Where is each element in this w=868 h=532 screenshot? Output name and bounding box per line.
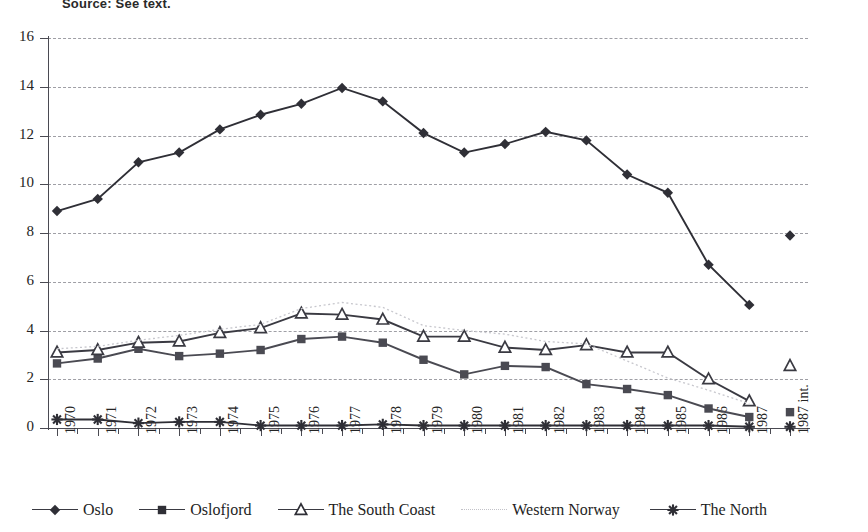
y-axis-tick-label: 0 xyxy=(0,418,34,435)
source-note: Source: See text. xyxy=(62,0,171,8)
triangle-marker xyxy=(295,504,306,515)
x-axis-minor-tick xyxy=(607,428,608,434)
y-axis-tick-label: 10 xyxy=(0,174,34,191)
legend-label: Western Norway xyxy=(512,501,620,519)
y-axis-tick xyxy=(40,282,49,283)
x-axis-tick xyxy=(627,428,628,436)
legend-item-oslofjord[interactable]: Oslofjord xyxy=(139,501,251,519)
y-axis-tick xyxy=(40,184,49,185)
legend-square-icon xyxy=(150,502,174,518)
legend-item-the-north[interactable]: The North xyxy=(650,501,767,519)
gridline xyxy=(48,331,808,332)
y-axis-tick-label: 8 xyxy=(0,223,34,240)
legend-label: Oslofjord xyxy=(190,501,251,519)
gridline xyxy=(48,136,808,137)
chart-figure: Source: See text. 0246810121416 19701971… xyxy=(0,0,868,532)
x-axis-minor-tick xyxy=(281,428,282,434)
x-axis-tick xyxy=(98,428,99,436)
x-axis-minor-tick xyxy=(118,428,119,434)
gridline xyxy=(48,184,808,185)
x-axis-minor-tick xyxy=(403,428,404,434)
x-axis-minor-tick xyxy=(77,428,78,434)
y-axis-tick xyxy=(40,428,49,429)
plot-gridlines xyxy=(48,38,808,428)
x-axis-tick xyxy=(586,428,587,436)
x-axis-tick xyxy=(668,428,669,436)
x-axis-minor-tick xyxy=(647,428,648,434)
square-marker xyxy=(158,506,166,514)
x-axis-minor-tick xyxy=(566,428,567,434)
legend-diamond-icon xyxy=(43,502,67,518)
gridline xyxy=(48,38,808,39)
y-axis-tick-label: 6 xyxy=(0,272,34,289)
y-axis-tick-label: 4 xyxy=(0,321,34,338)
diamond-marker xyxy=(50,505,60,515)
legend-item-the-south-coast[interactable]: The South Coast xyxy=(278,501,436,519)
x-axis-tick xyxy=(383,428,384,436)
y-axis-tick-label: 14 xyxy=(0,77,34,94)
x-axis-tick xyxy=(179,428,180,436)
legend-item-oslo[interactable]: Oslo xyxy=(32,501,113,519)
x-axis-tick xyxy=(261,428,262,436)
gridline xyxy=(48,282,808,283)
y-axis-tick xyxy=(40,379,49,380)
x-axis-tick xyxy=(342,428,343,436)
legend-item-western-norway[interactable]: Western Norway xyxy=(461,501,620,519)
y-axis-tick xyxy=(40,136,49,137)
x-axis-tick xyxy=(546,428,547,436)
y-axis-tick-label: 16 xyxy=(0,28,34,45)
gridline xyxy=(48,379,808,380)
x-axis-tick xyxy=(505,428,506,436)
chart-legend: OsloOslofjordThe South CoastWestern Norw… xyxy=(32,497,852,523)
x-axis-minor-tick xyxy=(322,428,323,434)
y-axis-tick xyxy=(40,233,49,234)
x-axis-tick xyxy=(301,428,302,436)
legend-label: The South Coast xyxy=(329,501,436,519)
y-axis-tick xyxy=(40,38,49,39)
x-axis-tick xyxy=(749,428,750,436)
x-axis-minor-tick xyxy=(485,428,486,434)
gridline xyxy=(48,87,808,88)
asterisk-marker xyxy=(667,504,678,515)
x-axis-minor-tick xyxy=(200,428,201,434)
y-axis-tick xyxy=(40,331,49,332)
x-axis-minor-tick xyxy=(525,428,526,434)
y-axis-tick xyxy=(40,87,49,88)
x-axis-tick xyxy=(220,428,221,436)
x-axis-minor-tick xyxy=(688,428,689,434)
legend-asterisk-icon xyxy=(661,502,685,518)
gridline xyxy=(48,233,808,234)
legend-label: Oslo xyxy=(83,501,113,519)
x-axis-tick xyxy=(790,428,791,436)
x-axis-tick xyxy=(138,428,139,436)
x-axis-minor-tick xyxy=(770,428,771,434)
legend-line-swatch xyxy=(32,503,78,517)
x-axis-minor-tick xyxy=(729,428,730,434)
x-axis-tick xyxy=(424,428,425,436)
y-axis-tick-label: 2 xyxy=(0,369,34,386)
x-axis-minor-tick xyxy=(240,428,241,434)
x-axis-tick xyxy=(57,428,58,436)
legend-line-swatch xyxy=(278,503,324,517)
x-axis-minor-tick xyxy=(159,428,160,434)
legend-line-swatch xyxy=(461,503,507,517)
x-axis-line xyxy=(48,428,810,429)
legend-label: The North xyxy=(701,501,767,519)
x-axis-tick xyxy=(464,428,465,436)
x-axis-tick-label: 1987 int. xyxy=(796,384,812,434)
y-axis-tick-label: 12 xyxy=(0,126,34,143)
legend-triangle-icon xyxy=(289,502,313,518)
x-axis-minor-tick xyxy=(444,428,445,434)
x-axis-tick xyxy=(709,428,710,436)
x-axis-minor-tick xyxy=(362,428,363,434)
legend-line-swatch xyxy=(650,503,696,517)
legend-line-swatch xyxy=(139,503,185,517)
